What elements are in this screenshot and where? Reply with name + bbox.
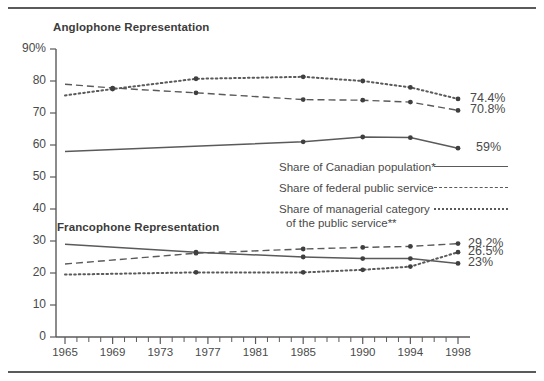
endpoint-value-label: 59%	[476, 140, 501, 154]
data-point	[301, 247, 306, 252]
data-point	[408, 100, 413, 105]
x-axis-tick-label: 1973	[134, 346, 186, 358]
y-axis-tick-label: 70	[6, 105, 46, 119]
legend-item: Share of managerial categoryof the publi…	[279, 202, 529, 223]
y-axis-tick-label: 80	[6, 73, 46, 87]
data-point	[194, 90, 199, 95]
data-point	[360, 256, 365, 261]
data-point	[408, 256, 413, 261]
x-axis-tick-label: 1985	[277, 346, 329, 358]
data-point	[301, 74, 306, 79]
data-point	[360, 135, 365, 140]
data-point	[301, 97, 306, 102]
data-point	[194, 251, 199, 256]
data-point	[301, 270, 306, 275]
x-axis-tick-label: 1990	[337, 346, 389, 358]
data-point	[110, 87, 115, 92]
legend-label: Share of managerial categoryof the publi…	[279, 202, 430, 230]
legend-line-sample-dashed	[434, 187, 508, 190]
data-point	[301, 255, 306, 260]
data-point	[360, 79, 365, 84]
y-axis-tick-label: 50	[6, 169, 46, 183]
y-axis-tick-label: 20	[6, 265, 46, 279]
data-point	[194, 76, 199, 81]
data-point	[456, 97, 461, 102]
x-axis-tick-label: 1981	[230, 346, 282, 358]
series-line	[65, 77, 458, 99]
data-point	[456, 108, 461, 113]
data-point	[360, 98, 365, 103]
x-axis-tick-label: 1965	[39, 346, 91, 358]
legend-label: Share of federal public service	[279, 181, 434, 195]
data-point	[408, 264, 413, 269]
legend-line-sample-dotted	[434, 208, 508, 212]
y-axis-tick-label: 10	[6, 297, 46, 311]
y-axis-tick-label: 0	[6, 329, 46, 343]
legend-label-line2: of the public service**	[279, 216, 430, 230]
data-point	[301, 139, 306, 144]
y-axis-tick-label: 60	[6, 137, 46, 151]
legend-item: Share of Canadian population*	[279, 160, 529, 181]
series-line	[65, 137, 458, 151]
y-axis-tick-label: 40	[6, 201, 46, 215]
data-point	[408, 244, 413, 249]
data-point	[456, 146, 461, 151]
data-point	[408, 135, 413, 140]
endpoint-value-label: 23%	[468, 255, 493, 269]
data-point	[360, 245, 365, 250]
chart-figure: Anglophone Representation Francophone Re…	[0, 0, 544, 381]
series-line	[65, 244, 458, 264]
x-axis-tick-label: 1977	[182, 346, 234, 358]
y-axis-tick-label: 90%	[6, 41, 46, 55]
chart-legend: Share of Canadian population*Share of fe…	[279, 160, 529, 223]
data-point	[456, 241, 461, 246]
data-point	[408, 85, 413, 90]
data-point	[456, 250, 461, 255]
legend-item: Share of federal public service	[279, 181, 529, 202]
x-axis-tick-label: 1998	[432, 346, 484, 358]
x-axis-tick-label: 1994	[384, 346, 436, 358]
y-axis-tick-label: 30	[6, 233, 46, 247]
data-point	[194, 270, 199, 275]
legend-label: Share of Canadian population*	[279, 160, 436, 174]
endpoint-value-label: 70.8%	[470, 102, 505, 116]
data-point	[360, 267, 365, 272]
legend-line-sample-solid	[434, 166, 508, 169]
x-axis-tick-label: 1969	[87, 346, 139, 358]
data-point	[456, 261, 461, 266]
